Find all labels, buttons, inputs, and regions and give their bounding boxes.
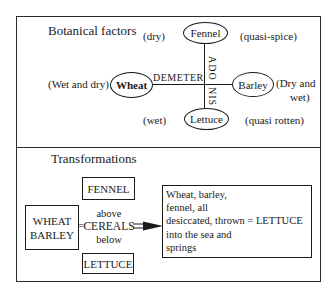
result-line-4: into the sea and	[166, 228, 308, 241]
wheat-left-note: (Wet and dry)	[48, 78, 109, 90]
lettuce-box: LETTUCE	[82, 253, 134, 274]
wheat-label: Wheat	[116, 79, 147, 91]
lettuce-node: Lettuce	[184, 108, 229, 130]
demeter-axis-line	[152, 84, 232, 85]
demeter-label: DEMETER	[153, 72, 204, 83]
fennel-box-label: FENNEL	[87, 182, 129, 196]
botanical-factors-title: Botanical factors	[48, 23, 136, 39]
lettuce-label: Lettuce	[190, 113, 223, 125]
cereals-label: CEREALS	[83, 220, 135, 233]
result-line-2: fennel, all	[166, 201, 308, 214]
fennel-box: FENNEL	[82, 177, 135, 200]
result-line-1: Wheat, barley,	[166, 188, 308, 201]
below-label: below	[83, 233, 135, 246]
adonis-axis-line	[204, 44, 205, 108]
result-line-3: desiccated, thrown = LETTUCE	[166, 214, 308, 227]
transformations-title: Transformations	[51, 151, 136, 167]
fennel-right-note: (quasi-spice)	[240, 30, 297, 42]
barley-node: Barley	[232, 72, 274, 97]
lettuce-right-note: (quasi rotten)	[245, 114, 304, 126]
barley-right-note-line2: wet)	[290, 91, 310, 103]
arrow-icon	[133, 220, 165, 232]
fennel-node: Fennel	[183, 22, 228, 44]
wheat-node: Wheat	[110, 72, 153, 98]
fennel-left-note: (dry)	[143, 30, 165, 42]
barley-label: Barley	[238, 79, 267, 91]
result-line-5: springs	[166, 241, 308, 254]
barley-box-label: BARLEY	[30, 228, 74, 242]
above-label: above	[83, 207, 135, 220]
lettuce-box-label: LETTUCE	[84, 257, 133, 271]
cereals-group: above CEREALS below	[83, 207, 135, 246]
wheat-box-label: WHEAT	[33, 214, 72, 228]
result-box: Wheat, barley, fennel, all desiccated, t…	[162, 185, 312, 258]
barley-right-note-line1: (Dry and	[276, 77, 315, 89]
lettuce-left-note: (wet)	[143, 114, 166, 126]
adonis-label-top: ADO	[207, 56, 218, 81]
adonis-label-bottom: NIS	[207, 87, 218, 106]
fennel-label: Fennel	[191, 27, 221, 39]
wheat-barley-box: WHEAT BARLEY	[25, 205, 79, 250]
